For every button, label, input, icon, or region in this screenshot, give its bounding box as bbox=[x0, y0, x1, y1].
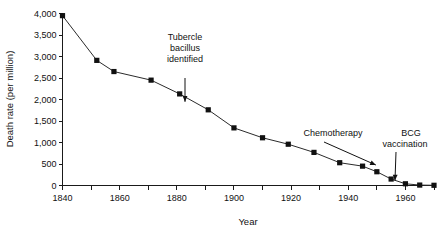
data-point-marker bbox=[231, 125, 236, 130]
x-tick-label: 1840 bbox=[52, 193, 72, 203]
x-tick-label: 1940 bbox=[338, 193, 358, 203]
data-point-marker bbox=[311, 150, 316, 155]
y-tick-label: 500 bbox=[41, 159, 56, 169]
data-point-marker bbox=[337, 160, 342, 165]
y-tick-label: 3,500 bbox=[34, 30, 57, 40]
data-point-marker bbox=[111, 69, 116, 74]
data-point-marker bbox=[360, 164, 365, 169]
data-point-marker bbox=[403, 181, 408, 186]
annotations-layer: TuberclebacillusidentifiedChemotherapyBC… bbox=[167, 32, 428, 180]
tuberculosis-death-rate-chart: 05001,0001,5002,0002,5003,0003,5004,000 … bbox=[0, 0, 443, 234]
y-tick-label: 0 bbox=[51, 181, 56, 191]
x-tick-label: 1860 bbox=[110, 193, 130, 203]
x-tick-label: 1900 bbox=[224, 193, 244, 203]
data-point-marker bbox=[260, 135, 265, 140]
series-line-tuberculosis bbox=[63, 16, 435, 186]
data-point-marker bbox=[206, 107, 211, 112]
y-tick-label: 1,500 bbox=[34, 116, 57, 126]
y-axis-tick-labels: 05001,0001,5002,0002,5003,0003,5004,000 bbox=[34, 9, 57, 191]
tubercle-bacillus-line: Tubercle bbox=[168, 32, 203, 42]
series-markers bbox=[60, 13, 437, 188]
y-axis-ticks bbox=[59, 14, 63, 186]
y-tick-label: 4,000 bbox=[34, 9, 57, 19]
data-point-marker bbox=[148, 78, 153, 83]
y-tick-label: 1,000 bbox=[34, 138, 57, 148]
bcg-vaccination-line: vaccination bbox=[382, 139, 427, 149]
x-tick-label: 1880 bbox=[167, 193, 187, 203]
bcg-vaccination-line: BCG bbox=[401, 128, 421, 138]
tubercle-bacillus-line: bacillus bbox=[170, 43, 201, 53]
data-point-marker bbox=[417, 182, 422, 187]
chemotherapy-arrow-shaft bbox=[324, 142, 376, 165]
y-tick-label: 2,000 bbox=[34, 95, 57, 105]
y-tick-label: 2,500 bbox=[34, 73, 57, 83]
tubercle-bacillus-line: identified bbox=[167, 54, 203, 64]
data-point-marker bbox=[286, 142, 291, 147]
x-axis-ticks bbox=[63, 186, 435, 190]
x-tick-label: 1920 bbox=[281, 193, 301, 203]
x-tick-label: 1960 bbox=[395, 193, 415, 203]
chemotherapy-line: Chemotherapy bbox=[303, 128, 363, 138]
data-point-marker bbox=[94, 58, 99, 63]
y-axis-title: Death rate (per million) bbox=[4, 51, 15, 148]
data-point-marker bbox=[374, 169, 379, 174]
data-point-marker bbox=[431, 183, 436, 188]
chart-plot-area: 05001,0001,5002,0002,5003,0003,5004,000 … bbox=[0, 0, 443, 234]
data-point-marker bbox=[177, 91, 182, 96]
data-point-marker bbox=[60, 13, 65, 18]
x-axis-tick-labels: 1840186018801900192019401960 bbox=[52, 193, 415, 203]
data-point-marker bbox=[389, 176, 394, 181]
y-tick-label: 3,000 bbox=[34, 52, 57, 62]
x-axis-title: Year bbox=[238, 216, 257, 227]
tubercle-bacillus-arrow-head bbox=[183, 96, 188, 102]
